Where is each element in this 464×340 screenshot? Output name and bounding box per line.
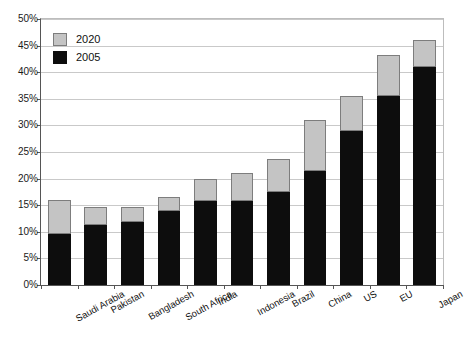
legend-swatch-2020-icon bbox=[53, 33, 67, 46]
chart-legend: 2020 2005 bbox=[53, 30, 149, 66]
y-axis-tick-label: 5% bbox=[4, 252, 38, 263]
bar-segment-2020[interactable] bbox=[48, 200, 71, 235]
bar-segment-2020[interactable] bbox=[413, 40, 436, 67]
x-axis-labels: Saudi ArabiaPakistanBangladeshSouth Afri… bbox=[40, 288, 444, 340]
bar-segment-2005[interactable] bbox=[158, 211, 181, 285]
bar-segment-2005[interactable] bbox=[84, 225, 107, 285]
bar-group[interactable] bbox=[413, 19, 436, 285]
bar-segment-2020[interactable] bbox=[158, 197, 181, 210]
x-axis-label: Japan bbox=[436, 288, 464, 310]
y-axis-tick-label: 40% bbox=[4, 66, 38, 77]
y-axis-tick-label: 45% bbox=[4, 39, 38, 50]
bar-segment-2005[interactable] bbox=[413, 67, 436, 285]
bar-group[interactable] bbox=[340, 19, 363, 285]
y-axis-tick-label: 30% bbox=[4, 119, 38, 130]
bar-segment-2020[interactable] bbox=[267, 159, 290, 192]
bar-segment-2005[interactable] bbox=[304, 171, 327, 285]
bar-segment-2005[interactable] bbox=[121, 222, 144, 285]
y-axis-tick-label: 25% bbox=[4, 146, 38, 157]
y-axis-tick-label: 15% bbox=[4, 199, 38, 210]
y-axis-tick-label: 0% bbox=[4, 279, 38, 290]
x-axis-label: China bbox=[326, 288, 353, 310]
bar-segment-2020[interactable] bbox=[304, 120, 327, 171]
bar-group[interactable] bbox=[267, 19, 290, 285]
legend-swatch-2005-icon bbox=[53, 51, 67, 64]
bar-segment-2020[interactable] bbox=[377, 55, 400, 96]
bar-segment-2005[interactable] bbox=[48, 234, 71, 285]
legend-item-2005[interactable]: 2005 bbox=[53, 48, 149, 66]
x-axis-label: US bbox=[361, 288, 378, 304]
x-axis-label: India bbox=[216, 288, 239, 308]
y-axis-tick-label: 10% bbox=[4, 225, 38, 236]
legend-item-2020[interactable]: 2020 bbox=[53, 30, 149, 48]
bar-segment-2005[interactable] bbox=[377, 96, 400, 285]
y-axis-tick-label: 20% bbox=[4, 172, 38, 183]
bar-segment-2020[interactable] bbox=[84, 207, 107, 226]
y-axis-tick-label: 50% bbox=[4, 13, 38, 24]
bar-group[interactable] bbox=[231, 19, 254, 285]
legend-label-2020: 2020 bbox=[76, 34, 100, 45]
legend-label-2005: 2005 bbox=[76, 52, 100, 63]
bar-group[interactable] bbox=[194, 19, 217, 285]
y-axis-tick-label: 35% bbox=[4, 92, 38, 103]
bar-group[interactable] bbox=[304, 19, 327, 285]
bar-segment-2020[interactable] bbox=[340, 96, 363, 131]
bar-segment-2005[interactable] bbox=[194, 201, 217, 285]
bar-segment-2020[interactable] bbox=[194, 179, 217, 201]
bar-segment-2005[interactable] bbox=[340, 131, 363, 285]
bar-segment-2005[interactable] bbox=[231, 201, 254, 285]
bar-group[interactable] bbox=[377, 19, 400, 285]
x-axis-label: Indonesia bbox=[255, 288, 296, 318]
bar-segment-2020[interactable] bbox=[121, 207, 144, 222]
bar-group[interactable] bbox=[158, 19, 181, 285]
x-axis-label: EU bbox=[398, 288, 415, 304]
bar-segment-2005[interactable] bbox=[267, 192, 290, 285]
gridline bbox=[41, 285, 443, 286]
bar-segment-2020[interactable] bbox=[231, 173, 254, 201]
